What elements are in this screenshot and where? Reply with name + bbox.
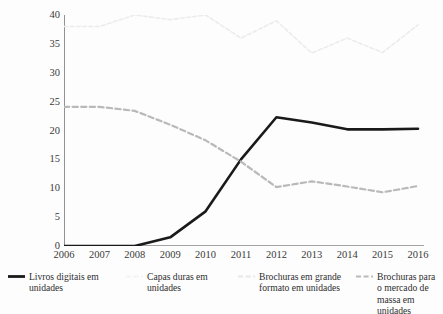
x-tick-label: 2007 bbox=[89, 250, 110, 261]
x-tick-label: 2011 bbox=[231, 250, 252, 261]
legend-label: Brochuras em grande formato em unidades bbox=[259, 271, 356, 294]
x-tick-label: 2012 bbox=[266, 250, 287, 261]
y-tick-label: 5 bbox=[34, 212, 60, 223]
x-tick-label: 2013 bbox=[301, 250, 322, 261]
series-line-0 bbox=[64, 117, 418, 246]
y-axis-ticks: 4035302520151050 bbox=[30, 15, 60, 246]
x-tick-label: 2006 bbox=[54, 250, 75, 261]
legend-label: Livros digitais em unidades bbox=[29, 271, 126, 294]
legend-item[interactable]: Brochuras para o mercado de massa em uni… bbox=[356, 271, 440, 314]
legend-item[interactable]: Capas duras em unidades bbox=[126, 271, 238, 294]
plot-area bbox=[64, 15, 424, 246]
x-axis-ticks: 2006200720082009201020112012201320142015… bbox=[64, 250, 424, 266]
series-line-2 bbox=[64, 15, 418, 53]
x-tick-label: 2008 bbox=[124, 250, 145, 261]
line-chart: Percenatual 4035302520151050 20062007200… bbox=[0, 0, 443, 314]
x-tick-label: 2015 bbox=[372, 250, 393, 261]
legend-swatch-line-icon bbox=[356, 274, 373, 285]
x-tick-label: 2010 bbox=[195, 250, 216, 261]
series-line-3 bbox=[64, 107, 418, 192]
series-canvas bbox=[64, 15, 424, 246]
legend-label: Capas duras em unidades bbox=[147, 271, 238, 294]
chart-legend: Livros digitais em unidadesCapas duras e… bbox=[8, 271, 440, 313]
x-tick-label: 2016 bbox=[408, 250, 429, 261]
y-tick-label: 40 bbox=[34, 10, 60, 21]
legend-item[interactable]: Livros digitais em unidades bbox=[8, 271, 126, 294]
y-tick-label: 15 bbox=[34, 154, 60, 165]
y-tick-label: 10 bbox=[34, 183, 60, 194]
y-tick-label: 30 bbox=[34, 68, 60, 79]
legend-swatch-line-icon bbox=[8, 274, 25, 285]
y-tick-label: 20 bbox=[34, 126, 60, 137]
legend-item[interactable]: Brochuras em grande formato em unidades bbox=[238, 271, 356, 294]
legend-label: Brochuras para o mercado de massa em uni… bbox=[377, 271, 440, 314]
x-tick-label: 2009 bbox=[160, 250, 181, 261]
x-tick-label: 2014 bbox=[337, 250, 358, 261]
y-tick-label: 25 bbox=[34, 97, 60, 108]
legend-swatch-line-icon bbox=[238, 274, 255, 285]
y-tick-label: 35 bbox=[34, 39, 60, 50]
legend-swatch-line-icon bbox=[126, 274, 143, 285]
